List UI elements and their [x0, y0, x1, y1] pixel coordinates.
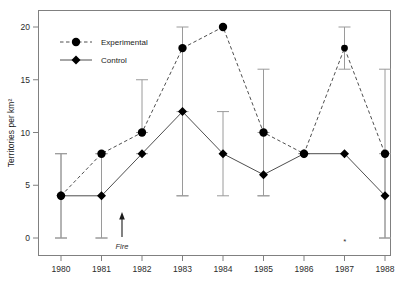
territories-line-chart: 20 15 10 5 0 Territories per km²: [0, 0, 404, 287]
fire-annotation-label: Fire: [116, 242, 129, 251]
chart-figure: 20 15 10 5 0 Territories per km²: [0, 0, 404, 287]
y-tick-label: 15: [21, 75, 31, 85]
x-tick-label: 1988: [376, 264, 395, 274]
legend-marker-circle: [72, 38, 80, 46]
legend-label-experimental: Experimental: [101, 38, 148, 47]
data-point: [259, 128, 267, 136]
data-point: [300, 150, 308, 158]
x-tick-label: 1980: [52, 264, 71, 274]
data-point: [97, 150, 105, 158]
data-point: [381, 150, 389, 158]
data-point: [219, 23, 227, 31]
y-tick-label: 20: [21, 22, 31, 32]
data-point: [178, 44, 186, 52]
data-point: [57, 192, 65, 200]
y-tick-label: 10: [21, 128, 31, 138]
y-tick-label: 0: [25, 233, 30, 243]
data-point: [138, 128, 146, 136]
x-tick-label: 1987: [335, 264, 354, 274]
x-tick-label: 1984: [214, 264, 233, 274]
data-point: [341, 45, 348, 52]
y-tick-label: 5: [25, 180, 30, 190]
x-tick-label: 1981: [92, 264, 111, 274]
x-tick-label: 1982: [133, 264, 152, 274]
x-tick-label: 1985: [254, 264, 273, 274]
x-tick-label: 1986: [295, 264, 314, 274]
x-tick-label: 1983: [173, 264, 192, 274]
legend-label-control: Control: [101, 56, 127, 65]
y-axis-title: Territories per km²: [6, 99, 16, 168]
